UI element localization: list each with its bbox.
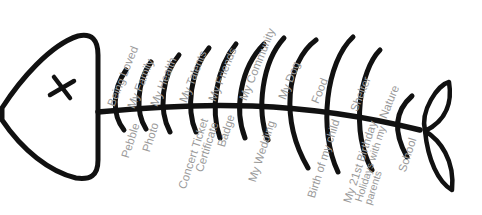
fish-skeleton-icon [0,0,482,215]
fish-head-icon [2,35,98,178]
fishbone-diagram: Being Loved My Family My Health My Talen… [0,0,482,215]
fish-tail-icon [424,82,452,190]
fish-eye-x-icon [50,77,74,98]
